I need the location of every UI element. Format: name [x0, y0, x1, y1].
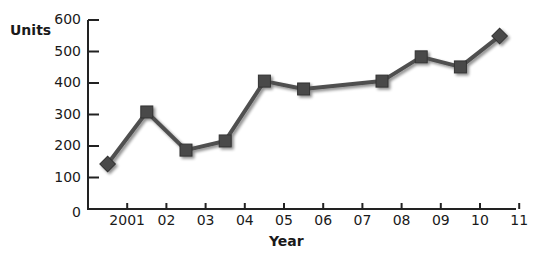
- x-tick-label: 02: [146, 212, 186, 228]
- y-ticks: [88, 20, 99, 209]
- x-tick-label: 04: [225, 212, 265, 228]
- square-marker-icon: [376, 75, 388, 87]
- square-marker-icon: [141, 106, 153, 118]
- square-marker-icon: [180, 144, 192, 156]
- x-tick-label: 07: [342, 212, 382, 228]
- y-tick-label: 0: [41, 204, 81, 220]
- data-series: [100, 28, 508, 171]
- x-tick-label: 08: [382, 212, 422, 228]
- x-tick-label: 03: [186, 212, 226, 228]
- x-tick-label: 06: [303, 212, 343, 228]
- x-tick-label: 11: [499, 212, 537, 228]
- x-tick-label: 2001: [107, 212, 147, 228]
- square-marker-icon: [298, 83, 310, 95]
- square-marker-icon: [258, 75, 270, 87]
- series-line: [108, 36, 500, 164]
- x-tick-label: 10: [460, 212, 500, 228]
- x-axis-title: Year: [269, 233, 304, 249]
- y-tick-label: 100: [41, 169, 81, 185]
- x-tick-label: 05: [264, 212, 304, 228]
- y-tick-label: 500: [41, 43, 81, 59]
- y-tick-label: 300: [41, 106, 81, 122]
- square-marker-icon: [219, 135, 231, 147]
- square-marker-icon: [415, 51, 427, 63]
- y-tick-label: 600: [41, 11, 81, 27]
- y-tick-label: 200: [41, 137, 81, 153]
- square-marker-icon: [454, 61, 466, 73]
- x-tick-label: 09: [421, 212, 461, 228]
- y-tick-label: 400: [41, 74, 81, 90]
